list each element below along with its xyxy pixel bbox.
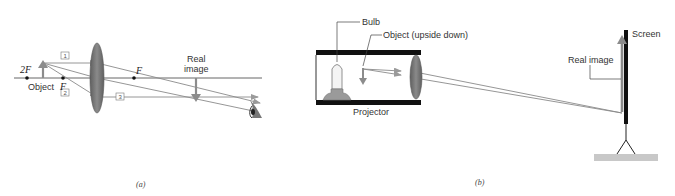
projector-housing-top — [316, 50, 421, 55]
label-real-image-1: Real — [187, 54, 206, 64]
converging-lens-icon — [410, 55, 422, 99]
bulb-icon — [323, 65, 351, 101]
ray-label-1: 1 — [61, 52, 69, 59]
rays-a — [43, 63, 260, 112]
panel-a: 1 2 3 2F Object F F Real image (a) — [14, 43, 262, 189]
caption-b: (b) — [475, 178, 485, 187]
label-f-left: F — [59, 81, 67, 92]
label-f-right: F — [135, 65, 143, 76]
eye-icon — [250, 100, 262, 118]
ground — [594, 154, 658, 161]
screen-stand-icon — [617, 124, 635, 154]
ray-label-3: 3 — [116, 93, 124, 100]
converging-lens-icon — [90, 43, 104, 113]
object-arrow-upside-down — [359, 68, 367, 85]
point-2f — [25, 76, 29, 80]
panel-b: Bulb Object (upside down) Projector Scre… — [316, 17, 661, 187]
label-real-image-2: image — [184, 64, 209, 74]
caption-a: (a) — [136, 180, 146, 189]
label-screen: Screen — [632, 29, 661, 39]
label-2f: 2F — [20, 64, 32, 75]
label-real-image-b: Real image — [568, 55, 614, 65]
projector-housing-bottom — [316, 100, 421, 105]
label-bulb: Bulb — [362, 17, 380, 27]
screen — [624, 30, 628, 124]
figure: 1 2 3 2F Object F F Real image (a) — [0, 0, 675, 196]
label-object-a: Object — [28, 82, 55, 92]
point-f-right — [132, 76, 136, 80]
label-projector: Projector — [353, 107, 389, 117]
label-object-upside-down: Object (upside down) — [383, 30, 468, 40]
rays-b — [363, 69, 622, 113]
